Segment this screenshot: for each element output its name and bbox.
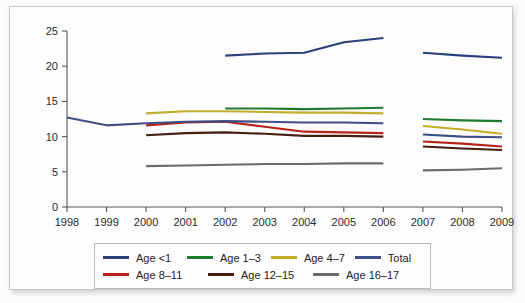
- series-line-age-12-15: [423, 146, 502, 150]
- legend-color-swatch: [208, 273, 234, 276]
- series-line-age-8-11: [423, 142, 502, 147]
- series-line-total: [423, 134, 502, 137]
- legend-item-age-1-3[interactable]: Age 1–3: [187, 249, 271, 266]
- series-line-age-1: [225, 38, 383, 56]
- x-tick-label: 1999: [94, 216, 118, 228]
- x-tick-label: 2000: [134, 216, 158, 228]
- y-tick-label: 25: [46, 25, 58, 37]
- legend-label: Age 4–7: [304, 252, 345, 264]
- x-tick-label: 1998: [55, 216, 79, 228]
- legend-item-total[interactable]: Total: [355, 249, 422, 266]
- legend-color-swatch: [187, 256, 213, 259]
- legend-label: Age 1–3: [220, 252, 261, 264]
- y-tick-label: 15: [46, 95, 58, 107]
- legend-item-age-16-17[interactable]: Age 16–17: [313, 266, 418, 283]
- chart-series-lines: [67, 38, 502, 170]
- legend-label: Age <1: [136, 252, 171, 264]
- y-tick-label: 0: [52, 201, 58, 213]
- legend-color-swatch: [103, 256, 129, 259]
- y-tick-label: 10: [46, 131, 58, 143]
- series-line-age-4-7: [146, 111, 383, 113]
- series-line-age-16-17: [146, 163, 383, 166]
- chart-frame: 0510152025 19981999200020012002200320042…: [9, 6, 513, 290]
- y-tick-label: 5: [52, 166, 58, 178]
- chart-legend: Age <1Age 1–3Age 4–7Total Age 8–11Age 12…: [94, 243, 431, 289]
- x-tick-label: 2009: [490, 216, 514, 228]
- legend-label: Age 12–15: [241, 269, 294, 281]
- x-tick-label: 2006: [371, 216, 395, 228]
- x-tick-label: 2004: [292, 216, 316, 228]
- legend-label: Total: [388, 252, 411, 264]
- x-axis-tick-labels: 1998199920002001200220032004200520062007…: [55, 216, 514, 228]
- legend-color-swatch: [355, 256, 381, 259]
- legend-row: Age <1Age 1–3Age 4–7Total: [103, 249, 422, 266]
- series-line-age-1: [423, 53, 502, 58]
- series-line-age-1-3: [225, 108, 383, 109]
- x-tick-label: 2007: [411, 216, 435, 228]
- legend-item-age-8-11[interactable]: Age 8–11: [103, 266, 208, 283]
- y-tick-label: 20: [46, 60, 58, 72]
- x-tick-label: 2005: [332, 216, 356, 228]
- legend-color-swatch: [271, 256, 297, 259]
- legend-item-age-1[interactable]: Age <1: [103, 249, 187, 266]
- legend-color-swatch: [313, 273, 339, 276]
- legend-item-age-12-15[interactable]: Age 12–15: [208, 266, 313, 283]
- series-line-total: [67, 118, 383, 126]
- legend-color-swatch: [103, 273, 129, 276]
- x-tick-label: 2008: [450, 216, 474, 228]
- x-tick-label: 2002: [213, 216, 237, 228]
- y-axis-tick-labels: 0510152025: [46, 25, 58, 213]
- chart-figure: 0510152025 19981999200020012002200320042…: [0, 0, 525, 303]
- legend-label: Age 16–17: [346, 269, 399, 281]
- series-line-age-4-7: [423, 126, 502, 134]
- x-tick-label: 2001: [173, 216, 197, 228]
- legend-row: Age 8–11Age 12–15Age 16–17: [103, 266, 422, 283]
- legend-label: Age 8–11: [136, 269, 182, 281]
- x-tick-label: 2003: [252, 216, 276, 228]
- legend-item-age-4-7[interactable]: Age 4–7: [271, 249, 355, 266]
- series-line-age-16-17: [423, 168, 502, 170]
- series-line-age-1-3: [423, 119, 502, 121]
